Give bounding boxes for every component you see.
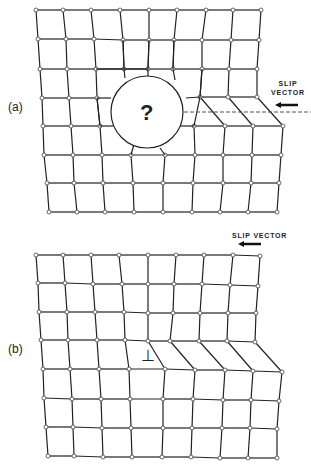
- atom-node: [99, 397, 103, 401]
- atom-node: [93, 310, 97, 314]
- atom-node: [257, 38, 261, 42]
- panel-b-label: (b): [8, 342, 23, 356]
- bond-line: [124, 312, 148, 313]
- bond-line: [223, 126, 225, 155]
- bond-line: [192, 183, 193, 212]
- atom-node: [161, 210, 165, 214]
- atom-node: [168, 339, 172, 343]
- bond-line: [103, 183, 105, 212]
- atom-node: [146, 282, 150, 286]
- bond-line: [193, 399, 223, 400]
- bond-line: [222, 400, 223, 428]
- bond-line: [228, 285, 230, 313]
- bond-line: [67, 312, 68, 340]
- bond-line: [191, 457, 220, 458]
- bond-line: [227, 341, 255, 342]
- bond-line: [65, 283, 67, 312]
- bond-line: [42, 98, 43, 126]
- atom-node: [251, 124, 255, 128]
- atom-node: [72, 454, 76, 458]
- atom-node: [249, 181, 253, 185]
- bond-line: [122, 284, 124, 312]
- bond-line: [173, 40, 174, 69]
- atom-node: [225, 339, 229, 343]
- atom-node: [228, 283, 232, 287]
- bond-line: [160, 148, 165, 155]
- panel-a-slip-vector-label: SLIP VECTOR: [266, 79, 310, 97]
- atom-node: [146, 339, 150, 343]
- atom-node: [246, 456, 250, 460]
- bond-line: [173, 284, 174, 313]
- atom-node: [223, 124, 227, 128]
- bond-line: [44, 398, 72, 399]
- atom-node: [200, 282, 204, 286]
- bond-line: [281, 126, 283, 155]
- atom-node: [191, 181, 195, 185]
- atom-node: [89, 8, 93, 12]
- atom-node: [279, 153, 283, 157]
- atom-node: [72, 181, 76, 185]
- atom-node: [130, 455, 134, 459]
- bond-line: [47, 183, 49, 212]
- bond-line: [199, 313, 200, 341]
- atom-node: [39, 338, 43, 342]
- bond-line: [192, 399, 193, 428]
- bond-line: [71, 126, 73, 155]
- atom-node: [45, 181, 49, 185]
- bond-line: [91, 10, 94, 39]
- atom-node: [204, 8, 208, 12]
- bond-line: [125, 340, 129, 369]
- panel-b-slip-vector-label: SLIP VECTOR: [232, 231, 287, 240]
- bond-line: [36, 255, 38, 283]
- atom-node: [255, 67, 259, 71]
- atom-node: [163, 367, 167, 371]
- atom-node: [44, 425, 48, 429]
- bond-line: [225, 370, 253, 371]
- bond-line: [65, 283, 93, 284]
- atom-node: [41, 367, 45, 371]
- atom-node: [248, 426, 252, 430]
- bond-line: [229, 40, 231, 69]
- atom-node: [198, 311, 202, 315]
- bond-line: [230, 255, 233, 285]
- atom-node: [175, 8, 179, 12]
- atom-node: [229, 38, 233, 42]
- atom-node: [103, 210, 107, 214]
- atom-node: [250, 153, 254, 157]
- bond-line: [69, 98, 71, 126]
- atom-node: [123, 338, 127, 342]
- atom-node: [36, 37, 40, 41]
- atom-node: [101, 181, 105, 185]
- atom-node: [41, 124, 45, 128]
- bond-line: [163, 155, 165, 183]
- bond-line: [259, 10, 261, 40]
- bond-line: [174, 255, 176, 284]
- bond-line: [223, 370, 225, 400]
- bond-line: [230, 285, 258, 286]
- atom-node: [246, 210, 250, 214]
- bond-line: [101, 399, 102, 428]
- bond-line: [194, 126, 195, 155]
- bond-line: [124, 312, 125, 340]
- atom-node: [122, 310, 126, 314]
- atom-node: [129, 426, 133, 430]
- bond-line: [130, 399, 131, 428]
- bond-line: [100, 126, 102, 155]
- atom-node: [127, 367, 131, 371]
- atom-node: [71, 153, 75, 157]
- atom-node: [221, 398, 225, 402]
- atom-node: [97, 367, 101, 371]
- atom-node: [68, 367, 72, 371]
- atom-node: [251, 369, 255, 373]
- atom-node: [193, 368, 197, 372]
- bond-line: [252, 126, 253, 155]
- atom-node: [231, 253, 235, 257]
- atom-node: [70, 397, 74, 401]
- bond-line: [63, 10, 66, 39]
- bond-line: [44, 155, 47, 183]
- bond-line: [123, 40, 124, 69]
- atom-node: [160, 455, 164, 459]
- bond-line: [199, 341, 225, 370]
- atom-node: [280, 370, 284, 374]
- bond-line: [94, 39, 96, 69]
